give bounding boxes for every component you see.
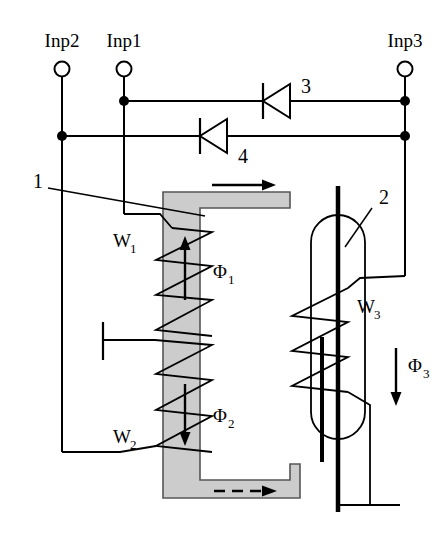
svg-text:2: 2 xyxy=(228,416,235,431)
label-inp1: Inp1 xyxy=(107,30,142,51)
w2-lead-out xyxy=(62,446,156,452)
svg-text:Φ: Φ xyxy=(213,261,227,282)
svg-text:W: W xyxy=(357,296,375,317)
svg-text:Φ: Φ xyxy=(213,405,227,426)
terminal-inp1[interactable] xyxy=(117,62,132,215)
terminal-inp2-circle[interactable] xyxy=(55,62,70,77)
label-part-2: 2 xyxy=(379,186,389,208)
svg-text:1: 1 xyxy=(130,241,137,256)
label-inp3: Inp3 xyxy=(388,30,423,51)
winding-tap xyxy=(103,322,155,360)
terminal-inp2[interactable] xyxy=(55,62,70,453)
svg-text:W: W xyxy=(113,230,131,251)
label-w1: W 1 xyxy=(113,230,137,256)
svg-text:Φ: Φ xyxy=(408,355,422,376)
label-part-1: 1 xyxy=(33,170,43,192)
diode-4-triangle xyxy=(200,119,227,153)
magnetic-core xyxy=(163,192,300,498)
schematic-canvas: Inp2 Inp1 Inp3 3 4 1 2 W 1 W 2 W 3 Φ 1 Φ… xyxy=(0,0,442,544)
label-w2: W 2 xyxy=(113,426,137,452)
diode-3-triangle xyxy=(263,84,290,118)
reactor-tube-part2 xyxy=(311,186,365,512)
terminal-inp3[interactable] xyxy=(398,62,413,277)
core-body xyxy=(163,192,300,498)
label-phi1: Φ 1 xyxy=(213,261,235,287)
schematic-figure: Inp2 Inp1 Inp3 3 4 1 2 W 1 W 2 W 3 Φ 1 Φ… xyxy=(0,0,442,544)
terminal-inp3-circle[interactable] xyxy=(398,62,413,77)
svg-text:3: 3 xyxy=(374,307,381,322)
terminal-inp1-circle[interactable] xyxy=(117,62,132,77)
svg-text:W: W xyxy=(113,426,131,447)
top-core-arrow xyxy=(212,180,276,191)
diode-3[interactable] xyxy=(263,83,290,119)
flux-arrow-phi3 xyxy=(391,348,402,406)
label-diode-3: 3 xyxy=(301,75,311,97)
svg-text:1: 1 xyxy=(228,272,235,287)
label-phi2: Φ 2 xyxy=(213,405,235,431)
svg-text:2: 2 xyxy=(130,437,137,452)
label-phi3: Φ 3 xyxy=(408,355,430,381)
diode-4[interactable] xyxy=(200,118,227,154)
label-diode-4: 4 xyxy=(238,145,248,167)
label-inp2: Inp2 xyxy=(45,30,80,51)
svg-text:3: 3 xyxy=(423,366,430,381)
